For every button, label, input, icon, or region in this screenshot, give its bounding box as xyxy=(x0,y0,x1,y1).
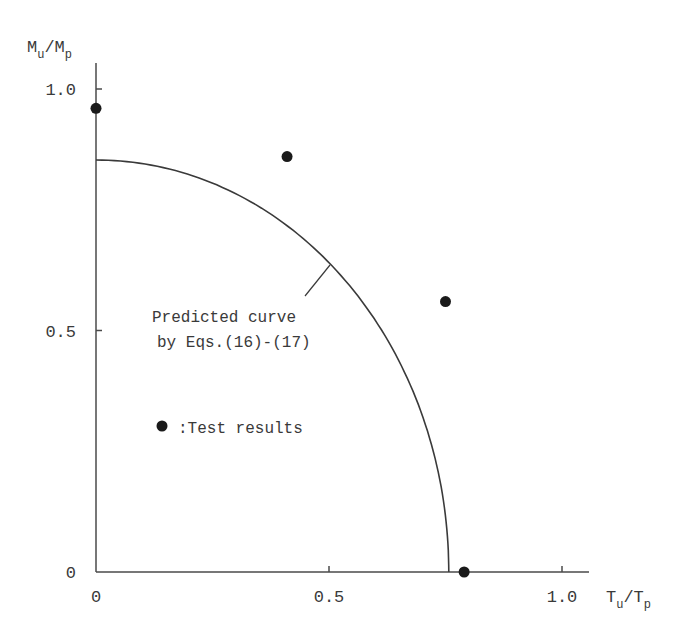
y-tick-label: 0.5 xyxy=(45,323,76,342)
annotation-leader-line xyxy=(305,265,330,296)
test-result-point xyxy=(91,103,102,114)
ticks: 00.51.000.51.0 xyxy=(45,81,577,607)
legend-marker-icon xyxy=(157,421,168,432)
test-result-point xyxy=(459,567,470,578)
x-tick-label: 1.0 xyxy=(547,588,578,607)
x-tick-label: 0.5 xyxy=(314,588,345,607)
legend-label: :Test results xyxy=(178,420,303,438)
test-result-point xyxy=(440,296,451,307)
predicted-curve xyxy=(96,160,449,572)
annotation-predicted-line1: Predicted curve xyxy=(152,309,296,327)
y-tick-label: 1.0 xyxy=(45,81,76,100)
y-axis-label: Mu/Mp xyxy=(27,38,72,62)
interaction-chart: 00.51.000.51.0 Predicted curve by Eqs.(1… xyxy=(0,0,699,639)
annotation-predicted-line2: by Eqs.(16)-(17) xyxy=(157,334,311,352)
x-tick-label: 0 xyxy=(91,588,101,607)
x-axis-label: Tu/Tp xyxy=(606,588,651,612)
y-tick-label: 0 xyxy=(66,564,76,583)
test-result-point xyxy=(282,151,293,162)
predicted-curve-path xyxy=(96,160,449,572)
